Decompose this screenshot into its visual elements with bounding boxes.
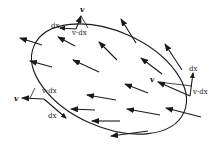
field-arrow	[125, 84, 148, 93]
dot-product-label: v·dx	[71, 29, 87, 37]
field-arrow	[121, 19, 136, 43]
field-arrow	[58, 37, 75, 46]
v-label: v	[14, 94, 19, 103]
v-label: v	[80, 5, 85, 14]
field-arrow	[165, 44, 182, 70]
v-label: v	[150, 75, 155, 84]
field-arrow	[166, 108, 201, 117]
field-arrow	[99, 42, 117, 60]
dot-product-label: v·dx	[41, 87, 57, 95]
field-arrow	[87, 95, 116, 100]
field-arrow	[30, 61, 52, 67]
projection-line	[81, 16, 88, 28]
v-vector-arrow	[76, 16, 81, 29]
dot-product-label: v·dx	[192, 88, 208, 96]
dx-label: dx	[189, 65, 197, 73]
field-arrow	[71, 109, 95, 110]
dx-label: dx	[51, 22, 59, 30]
point-right: vdxv·dx	[150, 65, 208, 96]
dx-label: dx	[48, 112, 56, 120]
vector-field-diagram: vdxv·dxvdxv·dxvdxv·dx	[0, 0, 222, 147]
field-arrow	[127, 109, 160, 115]
point-top: vdxv·dx	[51, 5, 88, 37]
closed-curve	[15, 2, 204, 147]
v-vector-arrow	[22, 98, 44, 99]
field-arrow	[73, 60, 99, 72]
field-arrow	[141, 58, 162, 74]
projection-line	[30, 88, 35, 98]
labeled-points: vdxv·dxvdxv·dxvdxv·dx	[14, 5, 208, 120]
ellipse-curve	[15, 2, 204, 147]
